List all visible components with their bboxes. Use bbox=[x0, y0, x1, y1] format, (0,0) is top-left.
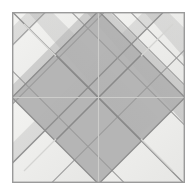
artwork-canvas: Diagonal Diamond Quilt Block bbox=[0, 0, 196, 196]
quilt-pattern-image bbox=[0, 0, 196, 196]
